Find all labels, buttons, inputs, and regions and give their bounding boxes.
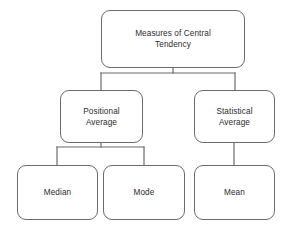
node-mean[interactable]: Mean: [194, 165, 275, 220]
node-statistical-average[interactable]: Statistical Average: [194, 90, 275, 143]
flowchart-diagram: Measures of Central Tendency Positional …: [0, 0, 290, 233]
node-label: Measures of Central Tendency: [131, 28, 215, 50]
node-label: Mean: [220, 187, 249, 198]
node-label: Statistical Average: [212, 106, 256, 128]
node-mode[interactable]: Mode: [103, 165, 185, 220]
node-label: Mode: [130, 187, 159, 198]
node-measures-of-central-tendency[interactable]: Measures of Central Tendency: [101, 10, 245, 68]
node-label: Median: [40, 187, 75, 198]
node-label: Positional Average: [79, 106, 124, 128]
node-median[interactable]: Median: [17, 165, 98, 220]
node-positional-average[interactable]: Positional Average: [60, 90, 143, 143]
